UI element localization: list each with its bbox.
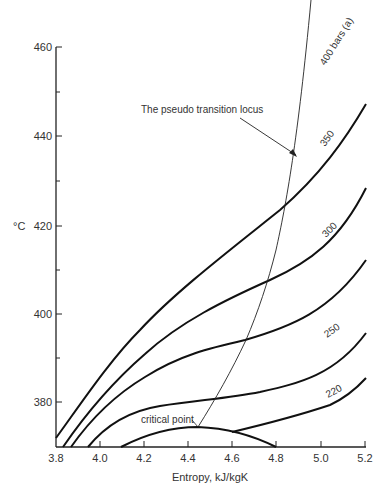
y-tick-420: 420	[34, 220, 52, 232]
x-tick-4.2: 4.2	[136, 452, 151, 464]
x-tick-4.8: 4.8	[268, 452, 283, 464]
x-tick-labels: 3.8 4.0 4.2 4.4 4.6 4.8 5.0 5.2	[48, 452, 372, 464]
critical-point-label: critical point	[141, 414, 194, 425]
y-ticks	[56, 47, 62, 402]
curve-400	[56, 104, 366, 438]
x-tick-5.2: 5.2	[357, 452, 372, 464]
y-tick-440: 440	[34, 130, 52, 142]
x-tick-4.4: 4.4	[180, 452, 195, 464]
x-ticks	[100, 441, 365, 447]
x-axis-label: Entropy, kJ/kgK	[172, 471, 249, 483]
label-300: 300	[320, 220, 340, 240]
x-tick-4.0: 4.0	[92, 452, 107, 464]
curve-300	[71, 260, 366, 447]
y-tick-labels: 460 440 420 400 380	[34, 41, 52, 408]
y-tick-400: 400	[34, 308, 52, 320]
x-tick-4.6: 4.6	[224, 452, 239, 464]
label-350: 350	[318, 128, 337, 148]
x-tick-3.8: 3.8	[48, 452, 63, 464]
isobar-curves	[56, 104, 366, 447]
y-tick-460: 460	[34, 41, 52, 53]
y-axis-label: °C	[13, 220, 25, 232]
y-tick-380: 380	[34, 396, 52, 408]
label-400-bars: 400 bars (a)	[317, 16, 355, 68]
pseudo-transition-locus	[198, 0, 311, 427]
locus-annotation: The pseudo transition locus	[141, 104, 263, 115]
label-250: 250	[322, 321, 342, 340]
locus-arrow	[240, 118, 296, 155]
x-tick-5.0: 5.0	[313, 452, 328, 464]
curve-220	[232, 378, 366, 432]
label-220: 220	[324, 382, 344, 400]
chart: 460 440 420 400 380 °C 3.8 4.0 4.2 4.4 4…	[0, 0, 384, 487]
